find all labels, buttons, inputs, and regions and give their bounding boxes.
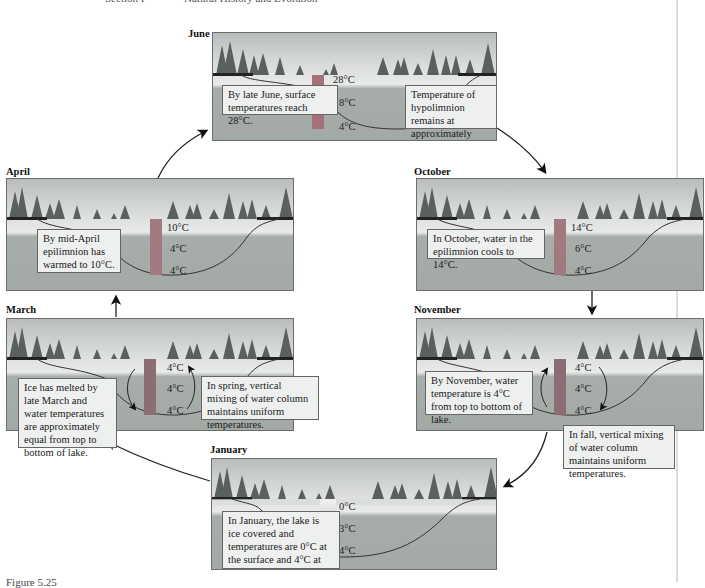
section-label: Section I bbox=[105, 0, 144, 4]
temp-middle: 4°C bbox=[170, 243, 186, 254]
panel-january: 0°C 3°C 4°C In January, the lake is ice … bbox=[211, 458, 497, 570]
temp-middle: 4°C bbox=[167, 383, 183, 394]
page-header: Section I Natural History and Evolution bbox=[0, 0, 400, 4]
panel-label-november: November bbox=[414, 304, 461, 315]
mixing-arrow-down-icon bbox=[599, 367, 607, 409]
callout-october: In October, water in the epilimnion cool… bbox=[427, 229, 545, 259]
chapter-title: Natural History and Evolution bbox=[184, 0, 318, 4]
callout-april: By mid-April epilimnion has warmed to 10… bbox=[37, 229, 121, 273]
panel-november: 4°C 4°C 4°C By November, water temperatu… bbox=[416, 318, 704, 431]
temp-bottom: 4°C bbox=[575, 405, 591, 416]
temp-surface: 4°C bbox=[167, 362, 183, 373]
temp-surface: 4°C bbox=[575, 362, 591, 373]
callout-june-surface: By late June, surface temperatures reach… bbox=[222, 85, 338, 115]
temperature-column bbox=[150, 219, 162, 275]
temp-bottom: 4°C bbox=[170, 265, 186, 276]
tree-icons bbox=[9, 327, 293, 359]
panel-october: 14°C 6°C 4°C In October, water in the ep… bbox=[416, 178, 704, 291]
panel-label-october: October bbox=[414, 166, 451, 177]
temp-bottom: 4°C bbox=[339, 121, 355, 132]
figure-caption: Figure 5.25 bbox=[6, 576, 57, 588]
tree-icons bbox=[216, 41, 495, 75]
temperature-column bbox=[554, 359, 566, 415]
temp-surface: 10°C bbox=[167, 222, 189, 233]
panel-label-january: January bbox=[210, 444, 247, 455]
arrow-november-to-january bbox=[505, 432, 547, 486]
temp-bottom: 4°C bbox=[575, 265, 591, 276]
tree-icons bbox=[9, 187, 293, 219]
page-margin-rule bbox=[676, 0, 678, 582]
tree-icons bbox=[214, 467, 497, 499]
temp-middle: 4°C bbox=[575, 383, 591, 394]
temperature-column bbox=[144, 359, 156, 415]
arrow-june-to-october bbox=[497, 128, 545, 172]
temp-middle: 6°C bbox=[575, 243, 591, 254]
temp-surface: 14°C bbox=[571, 222, 593, 233]
callout-march-ice: Ice has melted by late March and water t… bbox=[18, 378, 117, 448]
callout-january: In January, the lake is ice covered and … bbox=[222, 511, 340, 569]
temp-surface: 0°C bbox=[339, 501, 355, 512]
panel-june: 28°C 8°C 4°C By late June, surface tempe… bbox=[212, 32, 497, 141]
callout-june-hypolimnion: Temperature of hypolimnion remains at ap… bbox=[405, 85, 497, 129]
temp-bottom: 4°C bbox=[339, 545, 355, 556]
callout-november: By November, water temperature is 4°C fr… bbox=[425, 371, 533, 415]
callout-march-mixing: In spring, vertical mixing of water colu… bbox=[201, 376, 319, 420]
panel-april: 10°C 4°C 4°C By mid-April epilimnion has… bbox=[6, 178, 294, 291]
temp-middle: 3°C bbox=[339, 523, 355, 534]
panel-label-april: April bbox=[6, 166, 30, 177]
temp-surface: 28°C bbox=[333, 74, 355, 85]
temp-middle: 8°C bbox=[339, 97, 355, 108]
mixing-arrow-up-icon bbox=[187, 367, 195, 409]
arrow-april-to-june bbox=[158, 131, 206, 178]
tree-icons bbox=[419, 327, 703, 359]
panel-label-march: March bbox=[6, 304, 36, 315]
arrow-january-to-march bbox=[108, 442, 210, 481]
tree-icons bbox=[419, 187, 703, 219]
mixing-arrow-down-icon bbox=[128, 369, 136, 409]
temperature-column bbox=[554, 219, 566, 275]
callout-november-mixing: In fall, vertical mixing of water column… bbox=[563, 425, 675, 469]
temp-bottom: 4°C bbox=[167, 405, 183, 416]
mixing-arrow-up-icon bbox=[541, 369, 547, 407]
panel-label-june: June bbox=[188, 28, 210, 39]
